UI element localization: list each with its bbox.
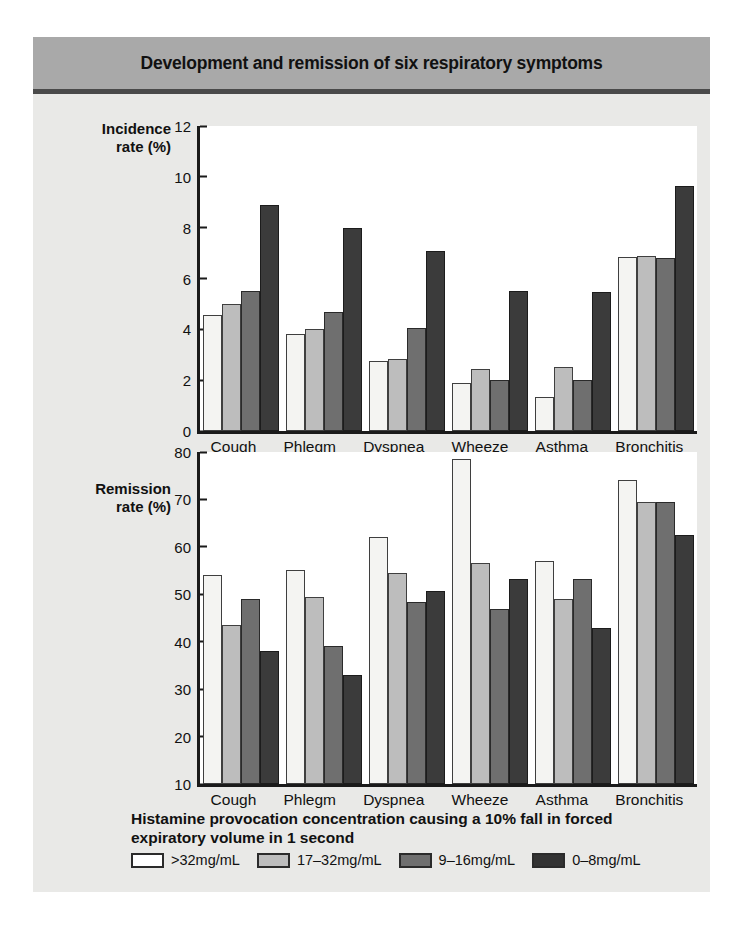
- bar-group: [286, 452, 362, 784]
- bar: [203, 315, 222, 431]
- bar: [388, 359, 407, 431]
- y-tick-label: 12: [174, 118, 200, 135]
- bar: [554, 599, 573, 784]
- remission-axis-title: Remission rate (%): [43, 480, 171, 516]
- y-tick-label: 0: [183, 423, 200, 440]
- figure-panel: Development and remission of six respira…: [33, 37, 710, 892]
- y-tick-label: 50: [174, 586, 200, 603]
- y-tick-label: 4: [183, 321, 200, 338]
- legend-swatch-icon: [257, 853, 290, 868]
- bar: [203, 575, 222, 784]
- y-tick-label: 80: [174, 444, 200, 461]
- remission-plot-area: 8070605040302010: [197, 452, 697, 787]
- bar-group: [535, 126, 611, 431]
- bar: [509, 579, 528, 784]
- bar: [241, 599, 260, 784]
- legend-swatch-icon: [399, 853, 432, 868]
- y-tick-label: 70: [174, 491, 200, 508]
- bar-group: [369, 452, 445, 784]
- bar-group: [618, 126, 694, 431]
- legend-swatch-icon: [532, 853, 565, 868]
- remission-x-labels: CoughPhlegmDyspneaWheezeAsthmaBronchitis: [197, 791, 697, 809]
- bar: [305, 597, 324, 784]
- bar: [675, 186, 694, 431]
- bar: [286, 334, 305, 431]
- bar: [490, 380, 509, 431]
- bar: [222, 625, 241, 784]
- bar: [675, 535, 694, 784]
- legend-swatch-icon: [131, 853, 164, 868]
- bar: [452, 383, 471, 431]
- bar: [656, 258, 675, 431]
- bar: [471, 369, 490, 431]
- incidence-bars: [200, 126, 697, 431]
- legend-label: 9–16mg/mL: [439, 852, 516, 868]
- legend-label: 17–32mg/mL: [297, 852, 382, 868]
- figure-title: Development and remission of six respira…: [33, 53, 710, 74]
- bar: [241, 291, 260, 431]
- bar: [426, 591, 445, 784]
- bar: [324, 312, 343, 431]
- bar: [369, 361, 388, 431]
- bar: [286, 570, 305, 784]
- bar: [509, 291, 528, 431]
- bar: [592, 292, 611, 431]
- bar-group: [452, 452, 528, 784]
- legend-item: >32mg/mL: [131, 852, 240, 868]
- bar: [535, 397, 554, 431]
- remission-bars: [200, 452, 697, 784]
- bar: [305, 329, 324, 431]
- x-axis-label: Phlegm: [283, 791, 336, 809]
- bar: [637, 256, 656, 431]
- bar: [452, 459, 471, 784]
- bar: [426, 251, 445, 431]
- bar: [369, 537, 388, 784]
- bar-group: [618, 452, 694, 784]
- bar: [407, 602, 426, 784]
- bar-group: [286, 126, 362, 431]
- legend-label: >32mg/mL: [171, 852, 240, 868]
- incidence-plot-area: 121086420: [197, 126, 697, 434]
- y-tick-label: 40: [174, 633, 200, 650]
- bar: [637, 502, 656, 784]
- x-axis-label: Dyspnea: [363, 791, 424, 809]
- x-axis-label: Wheeze: [452, 791, 509, 809]
- bar: [324, 646, 343, 784]
- x-axis-label: Cough: [211, 791, 257, 809]
- bar: [343, 228, 362, 431]
- x-axis-label: Asthma: [536, 791, 589, 809]
- chart-caption: Histamine provocation concentration caus…: [131, 809, 661, 847]
- legend-item: 17–32mg/mL: [257, 852, 382, 868]
- bar: [471, 563, 490, 784]
- bar: [260, 651, 279, 784]
- incidence-axis-title: Incidence rate (%): [43, 120, 171, 156]
- y-tick-label: 10: [174, 776, 200, 793]
- y-tick-label: 6: [183, 270, 200, 287]
- bar: [618, 480, 637, 784]
- y-tick-label: 8: [183, 219, 200, 236]
- legend-label: 0–8mg/mL: [572, 852, 641, 868]
- bar-group: [369, 126, 445, 431]
- figure-header: Development and remission of six respira…: [33, 37, 710, 94]
- bar: [573, 380, 592, 431]
- bar: [592, 628, 611, 785]
- x-axis-label: Bronchitis: [615, 791, 683, 809]
- y-tick-label: 2: [183, 372, 200, 389]
- bar-group: [535, 452, 611, 784]
- bar-group: [452, 126, 528, 431]
- legend-item: 0–8mg/mL: [532, 852, 641, 868]
- bar: [554, 367, 573, 431]
- bar: [407, 328, 426, 431]
- y-tick-label: 20: [174, 728, 200, 745]
- bar: [343, 675, 362, 784]
- y-tick-label: 10: [174, 168, 200, 185]
- bar: [618, 257, 637, 431]
- bar: [260, 205, 279, 431]
- chart-legend: >32mg/mL17–32mg/mL9–16mg/mL0–8mg/mL: [131, 852, 691, 868]
- legend-item: 9–16mg/mL: [399, 852, 516, 868]
- y-tick-label: 30: [174, 681, 200, 698]
- bar: [573, 579, 592, 784]
- bar: [535, 561, 554, 784]
- bar: [388, 573, 407, 784]
- y-tick-label: 60: [174, 538, 200, 555]
